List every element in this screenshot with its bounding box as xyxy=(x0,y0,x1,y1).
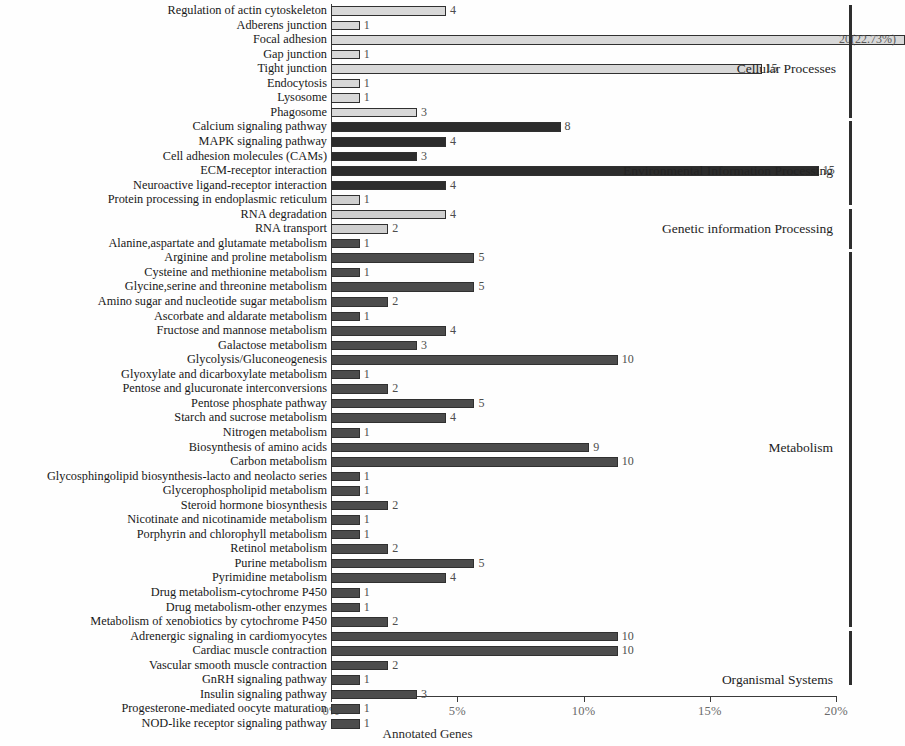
bar-value-label: 9 xyxy=(593,441,599,454)
pathway-bar[interactable] xyxy=(331,370,360,380)
bar-row: Tight junction15 xyxy=(0,62,855,77)
pathway-bar[interactable] xyxy=(331,239,360,249)
pathway-bar[interactable] xyxy=(331,50,360,60)
pathway-label: Amino sugar and nucleotide sugar metabol… xyxy=(98,294,327,308)
bar-row: Focal adhesion20(22.73%) xyxy=(0,33,855,48)
bar-value-label: 10 xyxy=(622,630,634,643)
bar-row: Progesterone-mediated oocyte maturation1 xyxy=(0,702,855,717)
pathway-bar[interactable] xyxy=(331,282,474,292)
group-label: Environmental Information Processing xyxy=(623,163,833,179)
bar-value-label: 3 xyxy=(421,339,427,352)
bar-row: Glycosphingolipid biosynthesis-lacto and… xyxy=(0,470,855,485)
bar-value-label: 1 xyxy=(364,586,370,599)
pathway-bar[interactable] xyxy=(331,297,388,307)
pathway-bar[interactable] xyxy=(331,472,360,482)
pathway-bar[interactable] xyxy=(331,617,388,627)
bar-value-label: 10 xyxy=(622,644,634,657)
bar-value-label: 3 xyxy=(421,106,427,119)
bar-value-label: 5 xyxy=(478,251,484,264)
pathway-bar[interactable] xyxy=(331,79,360,89)
pathway-label: Drug metabolism-other enzymes xyxy=(166,600,327,614)
pathway-bar[interactable] xyxy=(331,428,360,438)
bar-value-label: 4 xyxy=(450,411,456,424)
bar-value-label: 2 xyxy=(392,542,398,555)
pathway-bar[interactable] xyxy=(331,35,905,45)
pathway-bar[interactable] xyxy=(331,413,446,423)
pathway-label: Progesterone-mediated oocyte maturation xyxy=(121,701,327,715)
bar-value-label: 20(22.73%) xyxy=(839,33,896,46)
pathway-bar[interactable] xyxy=(331,588,360,598)
pathway-bar[interactable] xyxy=(331,224,388,234)
pathway-label: RNA degradation xyxy=(241,207,327,221)
bar-value-label: 3 xyxy=(421,150,427,163)
pathway-bar[interactable] xyxy=(331,704,360,714)
bar-value-label: 1 xyxy=(364,368,370,381)
pathway-bar[interactable] xyxy=(331,384,388,394)
pathway-label: Retinol metabolism xyxy=(230,541,327,555)
bar-value-label: 1 xyxy=(364,470,370,483)
pathway-bar[interactable] xyxy=(331,326,446,336)
pathway-bar[interactable] xyxy=(331,632,618,642)
bar-row: Ascorbate and aldarate metabolism1 xyxy=(0,310,855,325)
pathway-bar[interactable] xyxy=(331,530,360,540)
pathway-label: ECM-receptor interaction xyxy=(200,163,327,177)
pathway-bar[interactable] xyxy=(331,181,446,191)
pathway-bar[interactable] xyxy=(331,210,446,220)
pathway-bar[interactable] xyxy=(331,253,474,263)
pathway-bar[interactable] xyxy=(331,690,417,700)
pathway-bar[interactable] xyxy=(331,355,618,365)
pathway-label: Regulation of actin cytoskeleton xyxy=(168,3,327,17)
pathway-bar[interactable] xyxy=(331,559,474,569)
pathway-bar[interactable] xyxy=(331,93,360,103)
pathway-label: Biosynthesis of amino acids xyxy=(189,440,327,454)
bar-row: Steroid hormone biosynthesis2 xyxy=(0,499,855,514)
pathway-bar[interactable] xyxy=(331,341,417,351)
pathway-label: GnRH signaling pathway xyxy=(202,672,327,686)
bar-value-label: 2 xyxy=(392,295,398,308)
bar-value-label: 2 xyxy=(392,382,398,395)
pathway-bar[interactable] xyxy=(331,515,360,525)
bar-row: Galactose metabolism3 xyxy=(0,339,855,354)
bar-row: Regulation of actin cytoskeleton4 xyxy=(0,4,855,19)
pathway-bar[interactable] xyxy=(331,137,446,147)
pathway-bar[interactable] xyxy=(331,268,360,278)
pathway-bar[interactable] xyxy=(331,457,618,467)
pathway-bar[interactable] xyxy=(331,152,417,162)
pathway-bar[interactable] xyxy=(331,544,388,554)
bar-value-label: 1 xyxy=(364,426,370,439)
bar-row: Endocytosis1 xyxy=(0,77,855,92)
bar-row: Neuroactive ligand-receptor interaction4 xyxy=(0,179,855,194)
pathway-bar[interactable] xyxy=(331,312,360,322)
bar-row: Calcium signaling pathway8 xyxy=(0,120,855,135)
pathway-bar[interactable] xyxy=(331,443,589,453)
pathway-bar[interactable] xyxy=(331,646,618,656)
pathway-label: Pyrimidine metabolism xyxy=(212,570,327,584)
bar-row: Drug metabolism-cytochrome P4501 xyxy=(0,586,855,601)
pathway-bar[interactable] xyxy=(331,399,474,409)
pathway-bar[interactable] xyxy=(331,675,360,685)
pathway-bar[interactable] xyxy=(331,486,360,496)
pathway-bar[interactable] xyxy=(331,501,388,511)
pathway-bar[interactable] xyxy=(331,573,446,583)
bar-row: Adrenergic signaling in cardiomyocytes10 xyxy=(0,630,855,645)
pathway-bar[interactable] xyxy=(331,661,388,671)
bar-row: Alanine,aspartate and glutamate metaboli… xyxy=(0,237,855,252)
pathway-bar[interactable] xyxy=(331,6,446,16)
bar-value-label: 2 xyxy=(392,659,398,672)
pathway-bar[interactable] xyxy=(331,64,762,74)
pathway-bar[interactable] xyxy=(331,122,561,132)
pathway-label: Alanine,aspartate and glutamate metaboli… xyxy=(108,236,327,250)
pathway-bar[interactable] xyxy=(331,21,360,31)
pathway-bar[interactable] xyxy=(331,603,360,613)
group-bracket xyxy=(849,5,852,118)
pathway-label: Drug metabolism-cytochrome P450 xyxy=(151,585,327,599)
pathway-bar[interactable] xyxy=(331,195,360,205)
pathway-label: Steroid hormone biosynthesis xyxy=(181,498,327,512)
group-bracket xyxy=(849,209,852,249)
bar-row: Arginine and proline metabolism5 xyxy=(0,251,855,266)
bar-value-label: 1 xyxy=(364,48,370,61)
group-bracket xyxy=(849,631,852,686)
pathway-bar[interactable] xyxy=(331,108,417,118)
bar-row: MAPK signaling pathway4 xyxy=(0,135,855,150)
bar-value-label: 5 xyxy=(478,397,484,410)
